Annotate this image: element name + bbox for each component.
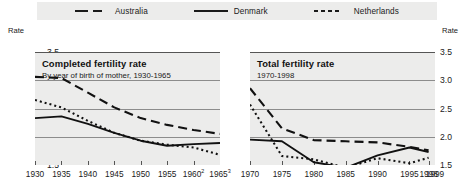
fertility-rate-figure: Australia Denmark Netherlands Rate 1.52.… bbox=[0, 0, 474, 195]
left-rate-caption: Rate bbox=[8, 26, 24, 35]
right-panel-title: Total fertility rate bbox=[257, 58, 334, 69]
left-y-axis-labels: 1.52.02.53.03.5 bbox=[7, 52, 33, 165]
series-line-netherlands bbox=[35, 100, 220, 155]
right-x-axis-labels: 19701975198019851990199519981999 bbox=[250, 170, 435, 182]
series-line-denmark bbox=[35, 116, 220, 145]
x-tick-label: 1990 bbox=[368, 170, 386, 178]
y-tick-label: 1.5 bbox=[440, 161, 466, 170]
right-y-axis-labels: 1.52.02.53.03.5 bbox=[440, 52, 466, 165]
chart-completed-fertility-rate: Rate 1.52.02.53.03.5 Completed fertility… bbox=[0, 0, 237, 195]
x-tick-label: 1935 bbox=[52, 170, 70, 178]
chart-total-fertility-rate: Rate 1.52.02.53.03.5 Total fertility rat… bbox=[237, 0, 474, 195]
x-tick-label: 1970 bbox=[241, 170, 259, 178]
x-tick-label: 19602 bbox=[183, 170, 204, 178]
right-panel-subtitle: 1970-1998 bbox=[257, 71, 294, 80]
x-tick-label: 1999 bbox=[426, 170, 444, 178]
x-tick-label: 1955 bbox=[158, 170, 176, 178]
x-tick-label: 1985 bbox=[336, 170, 354, 178]
y-tick-label: 2.0 bbox=[440, 132, 466, 141]
series-line-netherlands bbox=[250, 105, 429, 166]
x-tick-label: 1980 bbox=[305, 170, 323, 178]
y-tick-label: 2.5 bbox=[440, 104, 466, 113]
x-tick-label: 1940 bbox=[79, 170, 97, 178]
right-rate-caption: Rate bbox=[442, 26, 458, 35]
series-line-australia bbox=[35, 77, 220, 134]
left-panel-subtitle: By year of birth of mother, 1930-1965 bbox=[42, 71, 171, 80]
series-line-denmark bbox=[250, 140, 429, 165]
x-tick-label: 1975 bbox=[273, 170, 291, 178]
x-tick-label: 1930 bbox=[26, 170, 44, 178]
left-panel-title: Completed fertility rate bbox=[42, 58, 147, 69]
x-tick-label: 19653 bbox=[209, 170, 230, 178]
x-tick-label: 1950 bbox=[131, 170, 149, 178]
x-tick-label: 1995 bbox=[400, 170, 418, 178]
y-tick-label: 3.5 bbox=[440, 48, 466, 57]
y-tick-label: 3.0 bbox=[440, 76, 466, 85]
x-tick-label: 1945 bbox=[105, 170, 123, 178]
left-x-axis-labels: 1930193519401945195019551960219653 bbox=[35, 170, 220, 182]
